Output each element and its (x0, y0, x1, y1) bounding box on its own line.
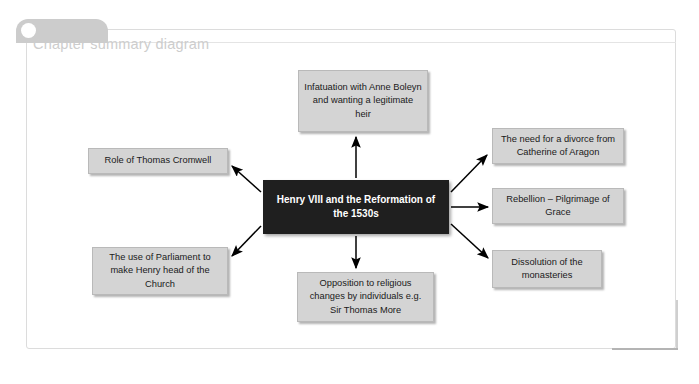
node-dissolution[interactable]: Dissolution of the monasteries (492, 250, 602, 288)
arrow-to-divorce (451, 155, 487, 192)
arrow-to-cromwell (232, 166, 261, 192)
node-opposition-label: Opposition to religious changes by indiv… (303, 277, 428, 317)
node-cromwell-label: Role of Thomas Cromwell (105, 154, 212, 167)
node-rebellion-label: Rebellion – Pilgrimage of Grace (498, 193, 618, 219)
node-divorce[interactable]: The need for a divorce from Catherine of… (492, 128, 624, 164)
node-parliament-label: The use of Parliament to make Henry head… (98, 251, 222, 291)
node-infatuation[interactable]: Infatuation with Anne Boleyn and wanting… (298, 70, 428, 132)
node-infatuation-label: Infatuation with Anne Boleyn and wanting… (304, 81, 422, 121)
node-parliament[interactable]: The use of Parliament to make Henry head… (92, 247, 228, 295)
node-rebellion[interactable]: Rebellion – Pilgrimage of Grace (492, 188, 624, 224)
node-center-label: Henry VIII and the Reformation of the 15… (269, 193, 443, 222)
node-dissolution-label: Dissolution of the monasteries (498, 256, 596, 282)
node-center-henry-viii[interactable]: Henry VIII and the Reformation of the 15… (263, 180, 449, 234)
node-opposition[interactable]: Opposition to religious changes by indiv… (297, 272, 434, 322)
arrow-to-parliament (232, 226, 261, 256)
node-cromwell[interactable]: Role of Thomas Cromwell (88, 148, 228, 174)
node-divorce-label: The need for a divorce from Catherine of… (498, 133, 618, 159)
chapter-summary-diagram: Henry VIII and the Reformation of the 15… (0, 0, 699, 384)
arrow-to-dissolution (451, 224, 488, 258)
